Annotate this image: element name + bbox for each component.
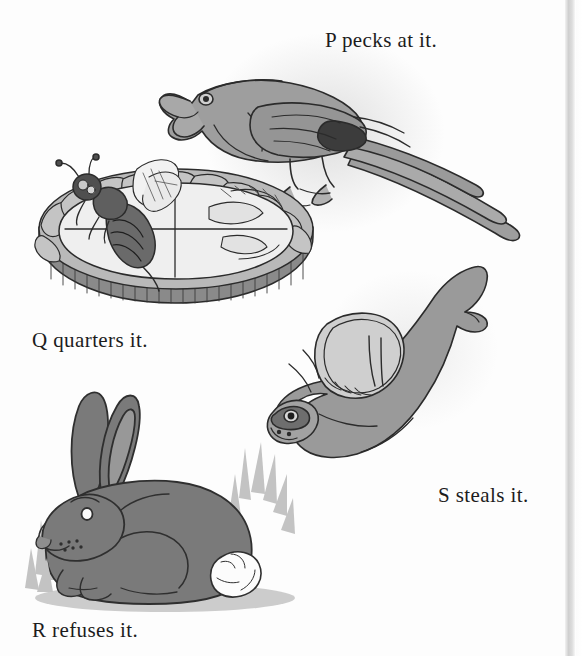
page-scan-edge [565, 0, 575, 656]
page-scan-edge-outer [576, 0, 582, 656]
rabbit-illustration [25, 388, 300, 613]
illustrated-page: P pecks at it. Q quarters it. S steals i… [0, 0, 582, 656]
caption-p: P pecks at it. [325, 28, 437, 53]
caption-s: S steals it. [438, 483, 529, 508]
caption-q: Q quarters it. [32, 328, 148, 353]
caption-r: R refuses it. [32, 618, 138, 643]
